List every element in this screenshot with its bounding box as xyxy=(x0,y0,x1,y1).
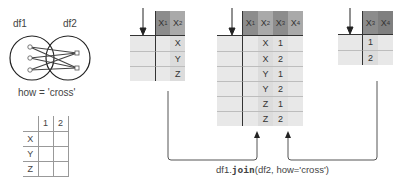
table-row: 1 xyxy=(338,35,393,50)
code-method: join xyxy=(232,164,255,175)
column-header: X4 xyxy=(288,11,303,36)
table-cell xyxy=(288,66,303,81)
table-cell: X xyxy=(258,51,273,66)
table-cell: 2 xyxy=(273,111,288,126)
column-header: X3 xyxy=(273,11,288,36)
venn-caption: how = 'cross' xyxy=(18,87,75,98)
table-cell: Y xyxy=(258,81,273,96)
result-table: X1 X2 X3 X4 X1X2Y1Y2Z1Z2 xyxy=(217,11,303,126)
matrix-row-header: Y xyxy=(23,146,38,161)
cross-matrix: 1 2 X Y Z xyxy=(23,116,69,177)
table-row: Z2 xyxy=(217,111,303,126)
matrix-col-header: 1 xyxy=(38,116,53,131)
column-header: X1 xyxy=(242,11,258,36)
table-cell: 2 xyxy=(273,81,288,96)
table-row: Z xyxy=(130,66,185,81)
table-row: Y1 xyxy=(217,66,303,81)
table-cell: Y xyxy=(258,66,273,81)
table-cell: Z xyxy=(258,111,273,126)
column-header: X2 xyxy=(258,11,273,36)
venn-diagram xyxy=(10,36,90,80)
right-table: X3 X4 1 2 xyxy=(338,11,393,65)
matrix-col-header: 2 xyxy=(53,116,68,131)
table-cell xyxy=(242,36,258,51)
table-cell xyxy=(288,51,303,66)
table-cell: 1 xyxy=(273,66,288,81)
table-row: X xyxy=(130,36,185,51)
table-row: Z1 xyxy=(217,96,303,111)
table-cell: 2 xyxy=(273,51,288,66)
table-cell xyxy=(242,51,258,66)
table-cell xyxy=(217,111,242,126)
left-table: X1 X2 X Y Z xyxy=(130,11,185,81)
table-cell xyxy=(242,81,258,96)
column-header: X1 xyxy=(155,11,171,36)
table-cell xyxy=(242,111,258,126)
table-cell xyxy=(217,36,242,51)
table-cell xyxy=(288,36,303,51)
table-cell xyxy=(217,96,242,111)
table-row: Y2 xyxy=(217,81,303,96)
venn-left-label: df1 xyxy=(13,18,27,29)
matrix-corner xyxy=(23,116,38,131)
table-cell xyxy=(242,66,258,81)
up-arrows xyxy=(254,131,291,138)
table-cell: 1 xyxy=(273,36,288,51)
table-cell xyxy=(217,81,242,96)
table-cell: Z xyxy=(258,96,273,111)
matrix-row-header: Z xyxy=(23,161,38,176)
table-cell xyxy=(217,51,242,66)
code-caption: df1.join(df2, how='cross') xyxy=(216,164,329,175)
matrix-row-header: X xyxy=(23,131,38,146)
table-cell: X xyxy=(258,36,273,51)
column-header: X2 xyxy=(170,11,185,36)
left-points xyxy=(28,45,32,72)
table-cell xyxy=(288,111,303,126)
table-row: 2 xyxy=(338,50,393,65)
venn-right-label: df2 xyxy=(63,18,77,29)
right-points xyxy=(75,51,79,70)
column-header: X3 xyxy=(362,11,378,35)
table-row: Y xyxy=(130,51,185,66)
column-header: X4 xyxy=(378,11,393,35)
table-row: X1 xyxy=(217,36,303,51)
table-cell xyxy=(288,81,303,96)
table-cell: 1 xyxy=(273,96,288,111)
table-cell xyxy=(288,96,303,111)
table-cell xyxy=(242,96,258,111)
table-row: X2 xyxy=(217,51,303,66)
table-cell xyxy=(217,66,242,81)
